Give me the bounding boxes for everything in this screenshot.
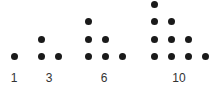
- dot: [11, 53, 18, 60]
- dot: [202, 53, 209, 60]
- dot: [168, 53, 175, 60]
- dot: [168, 36, 175, 43]
- dot: [119, 53, 126, 60]
- dot: [185, 36, 192, 43]
- dot: [55, 53, 62, 60]
- dot: [85, 36, 92, 43]
- dot: [102, 36, 109, 43]
- dot: [38, 53, 45, 60]
- group-label: 3: [46, 71, 53, 85]
- dot: [85, 18, 92, 25]
- dot: [102, 53, 109, 60]
- dot: [151, 53, 158, 60]
- dot: [151, 36, 158, 43]
- group-label: 1: [11, 71, 18, 85]
- dot: [151, 18, 158, 25]
- group-label: 6: [101, 71, 108, 85]
- dot: [151, 1, 158, 8]
- dot: [85, 53, 92, 60]
- group-label: 10: [172, 71, 185, 85]
- dot: [168, 18, 175, 25]
- dot: [38, 36, 45, 43]
- dot: [185, 53, 192, 60]
